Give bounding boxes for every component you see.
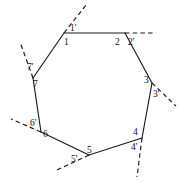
angle-label-4-prime: 4' (131, 143, 137, 153)
extension-ray-7 (20, 42, 33, 78)
angle-label-1-prime: 1' (70, 24, 76, 34)
angle-label-7-prime: 7' (27, 63, 33, 73)
extension-rays (11, 5, 176, 177)
edge-3-4 (142, 83, 152, 138)
angle-label-2-prime: 2' (128, 38, 134, 48)
angle-label-7: 7 (33, 80, 38, 90)
edge-7-1 (33, 33, 64, 78)
angle-label-2: 2 (115, 38, 120, 48)
angle-label-3-prime: 3' (153, 90, 159, 100)
extension-ray-6 (11, 119, 41, 132)
angle-label-5: 5 (87, 146, 92, 156)
angle-label-5-prime: 5' (71, 155, 77, 165)
extension-ray-4 (137, 138, 142, 177)
angle-label-3: 3 (144, 76, 149, 86)
angle-label-1: 1 (64, 38, 69, 48)
geometry-figure: 1 1' 2 2' 3 3' 4 4' 5 5' 6 6' 7 7' (0, 0, 183, 182)
edge-5-6 (41, 132, 89, 155)
angle-label-6-prime: 6' (30, 119, 36, 129)
angle-label-6: 6 (43, 130, 48, 140)
angle-label-4: 4 (133, 128, 138, 138)
